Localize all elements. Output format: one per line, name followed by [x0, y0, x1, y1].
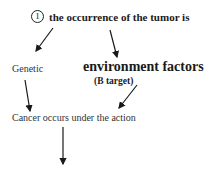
arrow-btarget-to-cancer	[119, 85, 137, 108]
arrow-title-to-environment	[110, 30, 117, 57]
arrow-genetic-to-cancer	[25, 80, 30, 111]
arrow-title-to-genetic	[36, 28, 53, 51]
arrows-layer	[0, 0, 219, 171]
